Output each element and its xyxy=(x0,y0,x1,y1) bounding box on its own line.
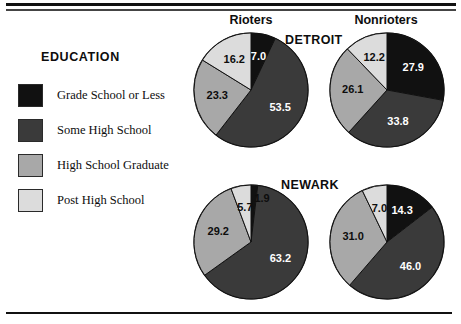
footer-rule xyxy=(6,312,452,314)
pie-slice-label: 29.2 xyxy=(208,225,229,237)
pie-slice-label: 12.2 xyxy=(363,51,384,63)
pie-slice-label: 5.7 xyxy=(237,201,252,213)
legend-label-some-high-school: Some High School xyxy=(57,123,151,138)
legend-item-some-high-school: Some High School xyxy=(18,113,198,148)
legend-label-post-high-school: Post High School xyxy=(57,193,145,208)
pie-slice-label: 31.0 xyxy=(342,230,363,242)
pie-slice-label: 26.1 xyxy=(342,83,363,95)
pie-slice-label: 33.8 xyxy=(387,115,408,127)
legend-swatch-post-high-school xyxy=(18,189,43,212)
legend: EDUCATION Grade School or Less Some High… xyxy=(18,50,198,218)
pie-chart-newark-nonrioters: 14.346.031.07.0 xyxy=(327,180,447,305)
legend-swatch-some-high-school xyxy=(18,119,43,142)
pie-slice-label: 7.0 xyxy=(372,202,387,214)
city-label-newark: NEWARK xyxy=(281,178,339,192)
legend-item-grade-school: Grade School or Less xyxy=(18,78,198,113)
legend-label-high-school-graduate: High School Graduate xyxy=(57,158,169,173)
legend-swatch-grade-school xyxy=(18,84,43,107)
pie-slice-label: 16.2 xyxy=(224,53,245,65)
legend-item-high-school-graduate: High School Graduate xyxy=(18,148,198,183)
legend-title: EDUCATION xyxy=(41,50,198,64)
pie-slice-label: 14.3 xyxy=(391,204,412,216)
pie-slice-label: 23.3 xyxy=(207,89,228,101)
city-label-detroit: DETROIT xyxy=(285,33,343,47)
column-header-nonrioters: Nonrioters xyxy=(330,13,442,27)
pie-slice-label: 53.5 xyxy=(269,101,290,113)
header-rule-lower xyxy=(6,9,456,11)
pie-chart-detroit-nonrioters: 27.933.826.112.2 xyxy=(327,28,447,153)
pie-slice-label: 27.9 xyxy=(403,61,424,73)
header-rule-upper xyxy=(6,3,456,6)
legend-swatch-high-school-graduate xyxy=(18,154,43,177)
legend-label-grade-school: Grade School or Less xyxy=(57,88,165,103)
pie-slice-label: 63.2 xyxy=(270,252,291,264)
pie-slice-label: 46.0 xyxy=(400,260,421,272)
pie-slice-label: 1.9 xyxy=(254,192,269,204)
pie-chart-newark-rioters: 1.963.229.25.7 xyxy=(191,180,311,305)
column-header-rioters: Rioters xyxy=(196,13,306,27)
pie-slice-label: 7.0 xyxy=(251,50,266,62)
legend-item-post-high-school: Post High School xyxy=(18,183,198,218)
